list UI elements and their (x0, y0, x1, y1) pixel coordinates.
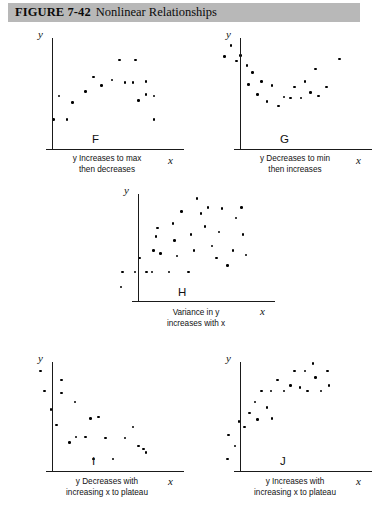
y-axis-line-h (138, 194, 139, 302)
panel-h: y x H Variance in y increases with x (110, 190, 280, 340)
data-point (260, 80, 263, 83)
data-point (256, 418, 259, 421)
data-point (245, 254, 248, 257)
data-point (234, 445, 237, 448)
data-point (306, 390, 309, 393)
data-point (124, 437, 127, 440)
data-point (320, 390, 323, 393)
data-point (89, 417, 92, 420)
y-axis-line-f (52, 38, 53, 150)
data-point (176, 255, 179, 258)
panel-i: y x I y Decreases with increasing x to p… (30, 360, 190, 525)
data-point (75, 436, 78, 439)
scatter-plot-h (110, 190, 250, 298)
data-point (266, 406, 269, 409)
data-point (271, 84, 274, 87)
x-axis-label-h: x (260, 305, 265, 317)
data-point (84, 90, 87, 93)
data-point (100, 84, 103, 87)
data-point (68, 441, 71, 444)
y-axis-line-i (52, 362, 53, 472)
data-point (153, 95, 156, 98)
data-point (58, 95, 61, 98)
panel-caption-f: y Increases to max then decreases (48, 154, 166, 175)
data-point (187, 271, 190, 274)
data-point (155, 235, 158, 238)
data-point (134, 271, 137, 274)
data-point (226, 264, 229, 267)
panel-caption-j: y Increases with increasing x to plateau (230, 477, 360, 498)
data-point (304, 370, 307, 373)
data-point (260, 390, 263, 393)
data-point (66, 118, 69, 121)
data-point (180, 210, 183, 213)
scatter-plot-j (218, 360, 350, 470)
data-point (251, 71, 254, 74)
data-point (266, 100, 269, 103)
data-point (283, 390, 286, 393)
data-point (132, 81, 135, 84)
scatter-plot-i (30, 360, 162, 470)
data-point (200, 212, 203, 215)
y-axis-line-j (240, 362, 241, 472)
y-axis-label-j: y (226, 352, 231, 364)
data-point (223, 55, 226, 58)
data-point (235, 60, 238, 63)
data-point (215, 257, 218, 260)
data-point (60, 392, 63, 395)
panel-caption-i: y Decreases with increasing x to plateau (42, 477, 172, 498)
data-point (221, 207, 224, 210)
x-axis-label-f: x (168, 154, 173, 166)
data-point (293, 86, 296, 89)
figure-title: Nonlinear Relationships (96, 5, 217, 20)
x-axis-line-i (46, 471, 184, 472)
panel-letter-f: F (92, 133, 99, 145)
data-point (142, 448, 145, 451)
data-point (312, 362, 315, 365)
data-point (43, 390, 46, 393)
data-point (74, 401, 77, 404)
y-axis-label-h: y (124, 184, 129, 196)
scatter-plot-g (218, 32, 350, 144)
data-point (211, 245, 214, 248)
data-point (235, 217, 238, 220)
data-point (121, 271, 124, 274)
data-point (293, 370, 296, 373)
data-point (314, 376, 317, 379)
data-point (232, 249, 235, 252)
data-point (153, 118, 156, 121)
data-point (111, 79, 114, 82)
data-point (120, 286, 123, 289)
x-axis-line-f (46, 149, 184, 150)
x-axis-label-g: x (356, 154, 361, 166)
data-point (227, 434, 230, 437)
data-point (145, 80, 148, 83)
data-point (309, 91, 312, 94)
data-point (84, 436, 87, 439)
data-point (55, 424, 58, 427)
data-point (243, 426, 246, 429)
panel-g: y x G y Decreases to min then increases (218, 32, 378, 187)
data-point (60, 379, 63, 382)
data-point (104, 437, 107, 440)
x-axis-line-h (132, 301, 275, 302)
data-point (289, 384, 292, 387)
data-point (256, 93, 259, 96)
data-point (39, 370, 42, 373)
data-point (124, 81, 127, 84)
data-point (173, 239, 176, 242)
x-axis-line-g (234, 149, 372, 150)
data-point (132, 426, 135, 429)
panel-caption-g: y Decreases to min then increases (236, 154, 354, 175)
panel-f: y x F y Increases to max then decreases (30, 32, 190, 187)
data-point (240, 206, 243, 209)
panel-letter-h: H (178, 286, 186, 298)
data-point (137, 99, 140, 102)
data-point (289, 97, 292, 100)
data-point (271, 417, 274, 420)
y-axis-label-i: y (38, 352, 43, 364)
data-point (299, 386, 302, 389)
data-point (277, 105, 280, 108)
data-point (317, 95, 320, 98)
data-point (325, 86, 328, 89)
